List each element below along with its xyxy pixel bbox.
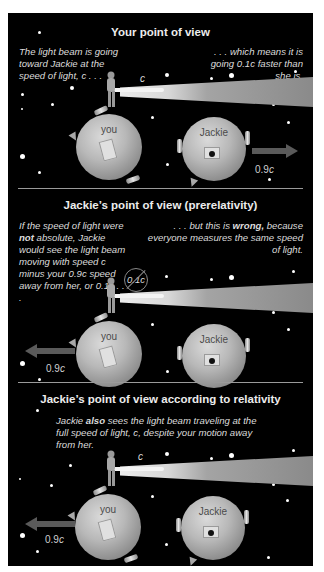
section-title: Your point of view [8,26,313,38]
light-beam [120,283,313,313]
pod [177,346,182,360]
star [267,556,270,559]
star [287,121,290,124]
star [292,449,295,452]
section-jackie-relativity: Jackie’s point of view according to rela… [8,383,313,566]
sphere-window [99,139,118,162]
caption-text: Jackie [56,415,86,426]
light-beam [120,456,313,486]
star [20,533,25,538]
motion-arrow-left-icon [25,517,75,531]
star [69,464,72,467]
motion-arrow-left-icon [25,344,75,358]
section-your-view: Your point of view The light beam is goi… [8,13,313,188]
pod [124,554,139,563]
beam-speed-label: c [140,73,145,84]
star [38,171,41,174]
star [21,108,23,110]
star [19,478,21,480]
crossed-out-speed-label: 0.1c [124,268,148,292]
star [166,163,169,166]
star [151,116,154,119]
star [21,93,24,96]
jackie-figure-icon [209,358,215,364]
section-jackie-prerelativity: Jackie’s point of view (prerelativity) I… [8,189,313,382]
star [36,550,39,553]
speed-number: 0.9 [46,363,60,374]
caption-center: Jackie also sees the light beam travelin… [56,415,271,451]
speed-unit: c [269,164,274,175]
speed-number: 0.9 [45,534,59,545]
star [292,270,295,273]
star [286,499,289,502]
star [151,323,154,326]
pod [245,131,250,145]
star [229,275,234,280]
light-beam-core [112,88,164,92]
diagram-panel: Your point of view The light beam is goi… [8,13,313,566]
jackie-sphere: Jackie [182,324,246,388]
star [166,370,169,373]
light-beam-core [112,294,164,298]
pod [245,338,250,352]
jackie-label: Jackie [181,506,245,517]
motion-speed-label: 0.9c [45,534,64,545]
star [210,77,213,80]
caption-right: . . . but this is wrong, because everyon… [143,220,303,256]
star [51,103,54,106]
antenna [187,557,197,566]
star [38,378,41,381]
pod [126,175,141,184]
star [268,178,271,181]
star [38,31,41,34]
jackie-label: Jackie [182,127,246,138]
speed-unit: c [59,534,64,545]
star [165,73,169,77]
you-sphere: you [76,114,142,180]
section-title: Jackie’s point of view (prerelativity) [8,199,313,211]
star [272,311,275,314]
star [294,70,297,73]
star [210,278,213,281]
star [229,453,234,458]
caption-text: If the speed of light were [19,220,124,231]
sphere-window [98,519,117,542]
star [210,457,213,460]
star [20,361,25,366]
star [151,495,154,498]
caption-text: . . . but this is [173,220,232,231]
star [20,154,25,159]
motion-speed-label: 0.9c [255,164,274,175]
jackie-figure-icon [209,151,215,157]
star [165,452,169,456]
star [50,484,53,487]
astronaut-icon [104,277,118,315]
pod [244,510,249,524]
you-sphere: you [75,494,141,560]
star [36,409,39,412]
you-label: you [76,124,142,135]
section-title: Jackie’s point of view according to rela… [8,393,313,405]
star [287,328,290,331]
caption-emphasis: wrong, [233,220,264,231]
light-beam-core [112,467,164,471]
you-label: you [75,504,141,515]
speed-unit: c [60,363,65,374]
star [165,543,168,546]
pod [176,518,181,532]
star [165,275,168,278]
sphere-window [99,346,118,369]
speed-number: 0.9 [255,164,269,175]
jackie-figure-icon [208,530,214,536]
you-label: you [76,331,142,342]
jackie-sphere: Jackie [182,117,246,181]
star [229,73,234,78]
astronaut-icon [104,71,118,109]
jackie-sphere: Jackie [181,496,245,560]
motion-speed-label: 0.9c [46,363,65,374]
beam-speed-label: c [138,451,143,462]
caption-emphasis: also [86,415,105,426]
you-sphere: you [76,321,142,387]
star [70,86,74,90]
antenna [188,178,198,188]
